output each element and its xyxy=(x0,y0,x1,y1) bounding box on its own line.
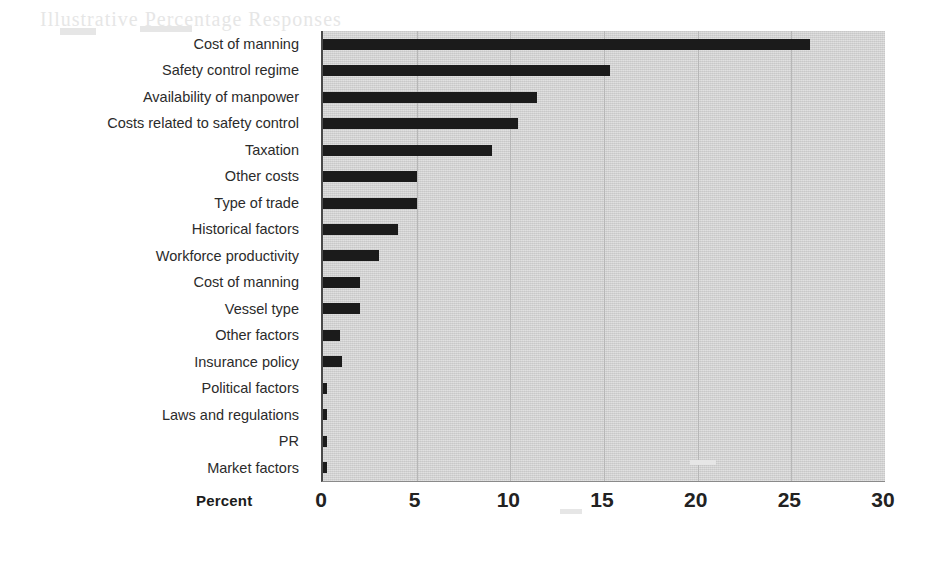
bar xyxy=(323,145,492,156)
bar xyxy=(323,356,342,367)
x-tick-5: 5 xyxy=(409,488,421,512)
bar xyxy=(323,383,327,394)
bar-row xyxy=(323,31,810,57)
bar xyxy=(323,409,327,420)
bar xyxy=(323,198,417,209)
bar-row xyxy=(323,455,327,481)
bar xyxy=(323,330,340,341)
category-label: Other costs xyxy=(225,163,299,189)
x-tick-30: 30 xyxy=(871,488,894,512)
bar-row xyxy=(323,137,492,163)
x-tick-20: 20 xyxy=(684,488,707,512)
category-label: Cost of manning xyxy=(193,269,299,295)
bar-row xyxy=(323,84,537,110)
bar-row xyxy=(323,349,342,375)
bar xyxy=(323,277,360,288)
x-tick-15: 15 xyxy=(590,488,613,512)
category-label: Vessel type xyxy=(225,296,299,322)
x-tick-25: 25 xyxy=(778,488,801,512)
bar-row xyxy=(323,243,379,269)
category-label: Cost of manning xyxy=(193,31,299,57)
bar-row xyxy=(323,216,398,242)
bar xyxy=(323,39,810,50)
x-axis-title: Percent xyxy=(196,492,252,509)
bar-row xyxy=(323,163,417,189)
bar xyxy=(323,118,518,129)
category-label: Workforce productivity xyxy=(156,243,299,269)
bar xyxy=(323,436,327,447)
bar xyxy=(323,65,610,76)
bar xyxy=(323,250,379,261)
bar xyxy=(323,171,417,182)
bar-row xyxy=(323,375,327,401)
bar-series xyxy=(323,31,885,481)
bar xyxy=(323,224,398,235)
category-label: Market factors xyxy=(207,455,299,481)
category-label: Availability of manpower xyxy=(143,84,299,110)
bar-row xyxy=(323,428,327,454)
bar xyxy=(323,92,537,103)
category-label: Type of trade xyxy=(214,190,299,216)
plot-area xyxy=(321,31,885,482)
bar-row xyxy=(323,402,327,428)
bar-row xyxy=(323,190,417,216)
bar xyxy=(323,303,360,314)
bar-row xyxy=(323,322,340,348)
x-tick-0: 0 xyxy=(315,488,327,512)
category-label: Costs related to safety control xyxy=(107,110,299,136)
category-label: Laws and regulations xyxy=(162,402,299,428)
bar-row xyxy=(323,269,360,295)
category-label: Taxation xyxy=(245,137,299,163)
bar xyxy=(323,462,327,473)
bar-row xyxy=(323,296,360,322)
category-label: PR xyxy=(279,428,299,454)
x-tick-10: 10 xyxy=(497,488,520,512)
category-label: Other factors xyxy=(215,322,299,348)
category-label: Historical factors xyxy=(192,216,299,242)
category-label: Safety control regime xyxy=(162,57,299,83)
bar-chart: Illustrative Percentage Responses Cost o… xyxy=(0,0,929,564)
category-label: Political factors xyxy=(201,375,299,401)
bar-row xyxy=(323,110,518,136)
x-axis-tick-labels: 051015202530 xyxy=(321,488,883,518)
bar-row xyxy=(323,57,610,83)
category-axis-labels: Cost of manningSafety control regimeAvai… xyxy=(0,31,311,481)
category-label: Insurance policy xyxy=(194,349,299,375)
